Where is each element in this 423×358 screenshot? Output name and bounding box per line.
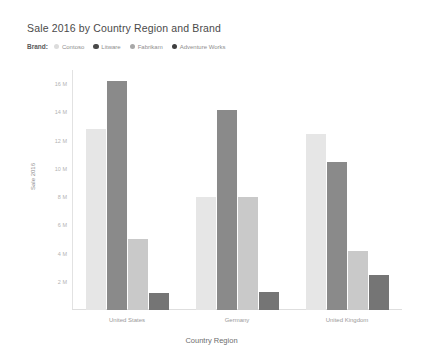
chart-visual: Sale 2016 by Country Region and Brand Br… bbox=[0, 0, 423, 358]
x-tick-label: Germany bbox=[182, 317, 292, 323]
y-tick-label: 8 M bbox=[58, 194, 67, 200]
legend: Brand: Contoso Litware Fabrikam Adventur… bbox=[27, 43, 231, 50]
bar[interactable] bbox=[196, 197, 216, 310]
bar[interactable] bbox=[348, 251, 368, 310]
legend-swatch-icon-0 bbox=[54, 44, 60, 50]
legend-item-0[interactable]: Contoso bbox=[54, 44, 84, 50]
y-tick-label: 6 M bbox=[58, 222, 67, 228]
legend-label-1: Litware bbox=[101, 44, 120, 50]
plot-area: 16 M14 M12 M10 M8 M6 M4 M2 M United Stat… bbox=[72, 70, 402, 310]
y-axis-title: Sale 2016 bbox=[30, 163, 36, 190]
y-tick-label: 16 M bbox=[55, 81, 67, 87]
bar[interactable] bbox=[259, 292, 279, 310]
bar-group: United States bbox=[72, 70, 182, 310]
bar[interactable] bbox=[86, 129, 106, 310]
legend-label-0: Contoso bbox=[62, 44, 84, 50]
y-tick-label: 10 M bbox=[55, 166, 67, 172]
legend-label-2: Fabrikam bbox=[138, 44, 163, 50]
bar[interactable] bbox=[369, 275, 389, 310]
bar[interactable] bbox=[327, 162, 347, 310]
bar[interactable] bbox=[128, 239, 148, 310]
legend-item-3[interactable]: Adventure Works bbox=[172, 44, 226, 50]
legend-swatch-icon-1 bbox=[93, 44, 99, 50]
y-tick-label: 12 M bbox=[55, 138, 67, 144]
x-axis-title: Country Region bbox=[0, 336, 423, 345]
legend-title: Brand: bbox=[27, 43, 48, 50]
legend-label-3: Adventure Works bbox=[180, 44, 226, 50]
bar-group: Germany bbox=[182, 70, 292, 310]
legend-swatch-icon-2 bbox=[130, 44, 136, 50]
y-tick-label: 4 M bbox=[58, 251, 67, 257]
bar[interactable] bbox=[306, 134, 326, 310]
bar-groups: United StatesGermanyUnited Kingdom bbox=[72, 70, 402, 310]
x-tick-label: United States bbox=[72, 317, 182, 323]
y-tick-label: 14 M bbox=[55, 109, 67, 115]
y-tick-label: 2 M bbox=[58, 279, 67, 285]
legend-item-2[interactable]: Fabrikam bbox=[130, 44, 163, 50]
bar-group: United Kingdom bbox=[292, 70, 402, 310]
legend-swatch-icon-3 bbox=[172, 44, 178, 50]
bar[interactable] bbox=[149, 293, 169, 310]
chart-title: Sale 2016 by Country Region and Brand bbox=[27, 22, 221, 34]
bar[interactable] bbox=[238, 197, 258, 310]
legend-item-1[interactable]: Litware bbox=[93, 44, 120, 50]
bar[interactable] bbox=[107, 81, 127, 310]
x-tick-label: United Kingdom bbox=[292, 317, 402, 323]
bar[interactable] bbox=[217, 110, 237, 310]
